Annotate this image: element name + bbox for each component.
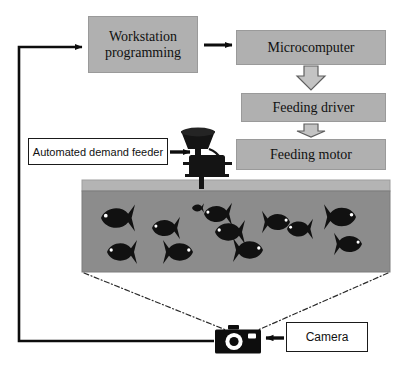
feeder-bracket-right-icon — [222, 162, 232, 165]
node-microcomputer-label: Microcomputer — [267, 40, 354, 56]
feeder-motor-body-icon — [189, 155, 225, 177]
fov-line-left — [84, 273, 226, 330]
fish-eye — [218, 228, 221, 231]
fish-eye — [357, 241, 360, 244]
node-workstation-programming[interactable]: Workstation programming — [88, 16, 198, 73]
block-arrow-driver-to-motor — [297, 124, 325, 137]
node-feeding-driver[interactable]: Feeding driver — [241, 93, 386, 122]
camera-flash-icon — [248, 334, 256, 339]
camera-viewfinder-icon — [228, 325, 239, 330]
block-arrow-microcomputer-to-driver — [297, 66, 325, 90]
camera-icon — [215, 325, 261, 355]
node-workstation-programming-label: Workstation programming — [89, 29, 197, 60]
camera-lens-inner-icon — [229, 337, 238, 346]
fish-eye — [289, 226, 292, 229]
label-camera[interactable]: Camera — [286, 322, 368, 352]
label-automated-demand-feeder-text: Automated demand feeder — [33, 146, 163, 158]
fish-eye — [350, 213, 354, 217]
node-microcomputer[interactable]: Microcomputer — [236, 30, 386, 65]
fish-eye — [285, 219, 288, 222]
label-camera-text: Camera — [306, 330, 349, 344]
feeder-base-plate-icon — [185, 174, 229, 177]
fish-eye — [110, 248, 113, 251]
fish-eye — [187, 248, 190, 251]
node-feeding-driver-label: Feeding driver — [272, 100, 354, 116]
feeder-dispense-tube-icon — [199, 177, 204, 189]
fish-eye — [257, 246, 260, 249]
label-automated-demand-feeder[interactable]: Automated demand feeder — [28, 138, 168, 165]
hopper-feeder-icon — [175, 127, 233, 189]
feeder-hopper-mouth-icon — [181, 128, 215, 137]
node-feeding-motor-label: Feeding motor — [270, 147, 352, 163]
tank-rim — [82, 180, 390, 191]
feeder-bracket-left-icon — [183, 162, 192, 165]
fish-eye — [206, 211, 209, 214]
node-feeding-motor[interactable]: Feeding motor — [236, 139, 386, 170]
system-diagram: Workstation programming Microcomputer Fe… — [0, 0, 404, 366]
fish-eye — [154, 225, 157, 228]
fish-eye — [104, 214, 108, 218]
